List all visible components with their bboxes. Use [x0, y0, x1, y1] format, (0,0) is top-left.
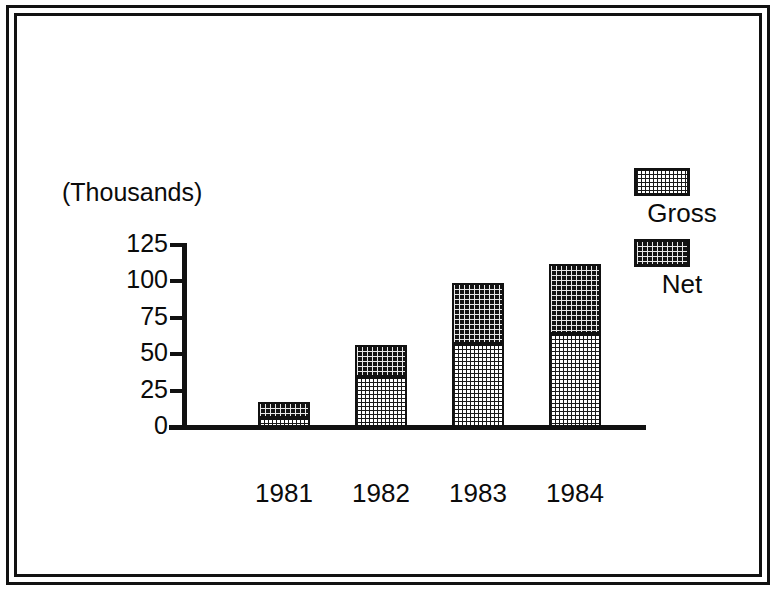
bar-segment-gross	[549, 334, 601, 427]
bar-1981	[258, 402, 310, 427]
bar-1984	[549, 264, 601, 427]
legend-swatch-gross-icon	[634, 168, 690, 196]
y-tick-label-text: 75	[98, 302, 168, 331]
y-tick-label-text: 50	[98, 338, 168, 367]
y-tick-mark	[170, 279, 187, 283]
y-tick-label: 100	[98, 265, 168, 293]
bar-segment-gross	[452, 344, 504, 427]
x-tick-label-1983: 1983	[423, 478, 533, 509]
bar-segment-net	[258, 402, 310, 418]
y-tick-mark	[170, 243, 187, 247]
x-tick-label-1982: 1982	[326, 478, 436, 509]
y-tick-mark	[170, 352, 187, 356]
bar-segment-net	[355, 345, 407, 377]
bar-segment-gross	[355, 377, 407, 427]
legend-item-net: Net	[612, 239, 752, 300]
y-tick-label: 0	[98, 411, 168, 439]
chart-legend: Gross Net	[612, 168, 752, 310]
x-tick-label-1984: 1984	[520, 478, 630, 509]
y-tick-mark	[170, 316, 187, 320]
chart-canvas: (Thousands) 1251007550250 19811982198319…	[0, 0, 777, 594]
y-tick-label-text: 100	[98, 265, 168, 294]
bar-1983	[452, 283, 504, 427]
bar-segment-net	[549, 264, 601, 334]
legend-swatch-net-icon	[634, 239, 690, 267]
y-tick-label: 50	[98, 338, 168, 366]
y-tick-label-text: 25	[98, 375, 168, 404]
legend-item-gross: Gross	[612, 168, 752, 229]
legend-label-gross: Gross	[612, 198, 752, 229]
y-tick-label-text: 125	[98, 229, 168, 258]
bar-segment-gross	[258, 418, 310, 427]
y-tick-mark	[170, 389, 187, 393]
bar-segment-net	[452, 283, 504, 344]
y-tick-label-text: 0	[98, 411, 168, 440]
y-axis-line	[182, 243, 187, 430]
y-tick-mark	[170, 425, 187, 429]
x-tick-label-1981: 1981	[229, 478, 339, 509]
y-tick-label: 75	[98, 302, 168, 330]
y-tick-label: 125	[98, 229, 168, 257]
y-tick-label: 25	[98, 375, 168, 403]
legend-label-net: Net	[612, 269, 752, 300]
bar-1982	[355, 345, 407, 427]
